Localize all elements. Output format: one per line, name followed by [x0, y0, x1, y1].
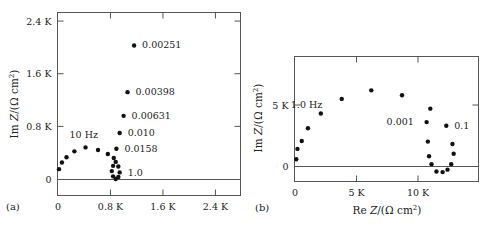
annotations-b: 1.0 Hz0.0010.1 [291, 99, 470, 131]
point-annotation: 0.00398 [136, 86, 175, 97]
data-point [427, 154, 431, 158]
point-annotation: 0.0158 [124, 143, 157, 154]
data-point [295, 147, 299, 151]
data-point [400, 93, 404, 97]
y-axis-label-a: Im Z/(Ω cm2) [8, 70, 20, 139]
impedance-charts: 00.8 K1.6 K2.4 K00.8 K1.6 K2.4 K 10 Hz1.… [0, 0, 488, 227]
data-points-a [57, 43, 137, 181]
point-annotation: 1.0 Hz [291, 99, 322, 110]
point-annotation: 0.010 [128, 127, 155, 138]
panel-a-nyquist-plot: 00.8 K1.6 K2.4 K00.8 K1.6 K2.4 K 10 Hz1.… [6, 13, 241, 213]
data-point [434, 169, 438, 173]
point-annotation: 0.1 [454, 120, 469, 131]
data-point [429, 162, 433, 166]
y-axis-label-b: Im Z/(Ω cm2) [252, 84, 264, 153]
y-tick-label: 2.4 K [26, 16, 52, 27]
data-point [445, 167, 449, 171]
panel-b-nyquist-plot: 05 K10 K05 K 1.0 Hz0.0010.1 Im Z/(Ω cm2)… [252, 57, 479, 217]
data-point [444, 124, 448, 128]
data-point [121, 114, 125, 118]
point-annotation: 1.0 [128, 167, 143, 178]
data-point [112, 156, 116, 160]
data-point [319, 111, 323, 115]
x-tick-label: 0 [55, 201, 61, 212]
panel-label-b: (b) [255, 202, 269, 213]
point-annotation: 0.00251 [142, 39, 181, 50]
x-tick-label: 1.6 K [150, 201, 176, 212]
data-point [110, 169, 114, 173]
data-point [83, 145, 87, 149]
data-point [449, 162, 453, 166]
data-point [450, 142, 454, 146]
data-point [424, 120, 428, 124]
data-point [111, 164, 115, 168]
annotations-a: 10 Hz1.00.01580.0100.006310.003980.00251 [70, 39, 182, 178]
point-annotation: 10 Hz [70, 129, 98, 140]
data-point [64, 155, 68, 159]
data-point [125, 90, 129, 94]
x-tick-label: 0.8 K [98, 201, 124, 212]
data-point [132, 43, 136, 47]
y-tick-label: 5 K [272, 100, 289, 111]
y-tick-label: 0 [282, 161, 288, 172]
data-point [57, 167, 61, 171]
data-point [106, 152, 110, 156]
data-point [117, 131, 121, 135]
y-tick-label: 0 [45, 174, 51, 185]
data-point [117, 170, 121, 174]
x-tick-label: 10 K [407, 187, 430, 198]
data-point [114, 147, 118, 151]
x-tick-label: 5 K [348, 187, 365, 198]
data-point [96, 148, 100, 152]
data-point [300, 139, 304, 143]
point-annotation: 0.001 [387, 116, 414, 127]
data-point [428, 106, 432, 110]
data-point [369, 88, 373, 92]
data-point [440, 170, 444, 174]
data-point [111, 174, 115, 178]
data-point [426, 139, 430, 143]
x-tick-label: 2.4 K [203, 201, 229, 212]
x-axis-label-b: Re Z/(Ω cm2) [353, 204, 422, 216]
data-point [294, 157, 298, 161]
y-tick-label: 1.6 K [26, 68, 52, 79]
data-point [340, 97, 344, 101]
data-point [306, 126, 310, 130]
data-point [60, 160, 64, 164]
x-tick-label: 0 [292, 187, 298, 198]
data-point [72, 149, 76, 153]
y-tick-label: 0.8 K [26, 121, 52, 132]
panel-label-a: (a) [6, 201, 20, 212]
data-point [114, 160, 118, 164]
data-point [451, 152, 455, 156]
data-point [116, 164, 120, 168]
point-annotation: 0.00631 [132, 110, 171, 121]
